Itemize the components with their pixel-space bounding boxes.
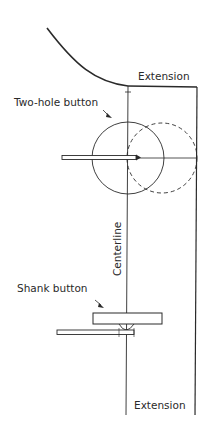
needle-bar: [62, 156, 136, 160]
label-extension-bottom: Extension: [134, 399, 186, 411]
label-two-hole-button: Two-hole button: [13, 96, 98, 108]
label-shank-button: Shank button: [17, 282, 87, 294]
centerline: [126, 86, 128, 415]
button-placement-diagram: Extension Two-hole button Centerline Sha…: [0, 0, 212, 438]
neckline-curve: [47, 28, 128, 86]
label-extension-top: Extension: [138, 70, 190, 82]
shank-base-bar: [57, 330, 134, 335]
label-centerline: Centerline: [111, 222, 123, 276]
two-hole-pointer-arrow-icon: [106, 113, 112, 118]
shank-button: [93, 313, 162, 324]
needle-arrow-icon: [136, 155, 141, 161]
extension-right-edge: [195, 87, 197, 415]
extension-top-edge: [128, 86, 197, 87]
shank-pointer-arrow-icon: [98, 303, 104, 308]
